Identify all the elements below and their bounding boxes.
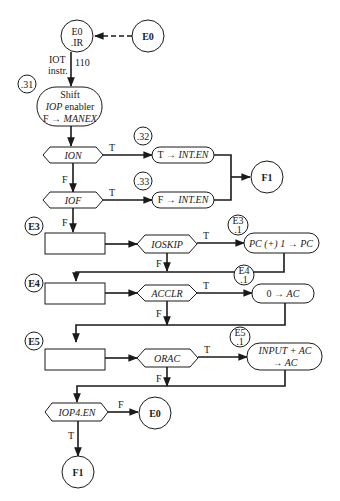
svg-text:F → INT.EN: F → INT.EN	[158, 194, 210, 205]
svg-text:INPUT + AC: INPUT + AC	[257, 345, 311, 356]
connector-f1-top: F1	[251, 161, 283, 193]
decision-ion: ION	[43, 147, 103, 163]
orac-action-box: INPUT + AC → AC	[247, 343, 322, 370]
orac-false-label: F	[156, 373, 162, 384]
svg-text:T → INT.EN: T → INT.EN	[157, 149, 209, 160]
decision-acclr: ACCLR	[137, 285, 197, 301]
svg-text:→ AC: → AC	[272, 357, 297, 368]
tag-32: .32	[134, 127, 152, 145]
code-110: 110	[75, 57, 90, 68]
tag-e4: E4	[25, 274, 43, 292]
svg-text:ACCLR: ACCLR	[150, 288, 182, 299]
acclr-false-label: F	[156, 308, 162, 319]
tag-e5-1: E5 .1	[230, 327, 250, 347]
decision-ioskip: IOSKIP	[137, 235, 197, 253]
join-line	[77, 370, 285, 402]
svg-text:F1: F1	[261, 172, 272, 183]
svg-text:ION: ION	[63, 150, 83, 161]
svg-text:IOF: IOF	[64, 195, 83, 206]
svg-text:.33: .33	[137, 176, 150, 187]
svg-text:E5: E5	[28, 336, 40, 347]
svg-text:.IR: .IR	[71, 37, 84, 48]
e3-box	[45, 233, 105, 254]
acclr-true-label: T	[203, 280, 209, 291]
connector-f1-bottom: F1	[62, 456, 94, 488]
svg-text:.1: .1	[236, 336, 244, 347]
svg-text:E0: E0	[71, 26, 82, 37]
svg-text:.1: .1	[240, 274, 248, 285]
tag-e4-1: E4 .1	[234, 265, 254, 285]
svg-text:.32: .32	[137, 131, 150, 142]
svg-text:PC (+) 1 → PC: PC (+) 1 → PC	[248, 238, 313, 250]
tag-e3-1: E3 .1	[228, 215, 248, 235]
connector-e0-bottom: E0	[139, 397, 171, 429]
e5-box	[45, 349, 105, 370]
merge-line	[214, 155, 231, 200]
svg-text:E4: E4	[28, 278, 40, 289]
svg-text:IOP enabler: IOP enabler	[45, 101, 95, 112]
decision-orac: ORAC	[137, 349, 198, 367]
svg-text:E0: E0	[142, 31, 154, 42]
decision-iof: IOF	[43, 192, 103, 208]
ion-action-box: T → INT.EN	[152, 147, 214, 163]
svg-text:Shift: Shift	[60, 89, 80, 100]
instr-label: instr.	[48, 65, 68, 76]
acclr-action-box: 0 → AC	[252, 284, 314, 303]
join-line	[76, 303, 285, 342]
iof-action-box: F → INT.EN	[152, 192, 214, 208]
ioskip-action-box: PC (+) 1 → PC	[244, 233, 319, 253]
iof-true-label: T	[109, 187, 115, 198]
ion-true-label: T	[109, 142, 115, 153]
orac-true-label: T	[204, 344, 210, 355]
tag-33: .33	[134, 172, 152, 190]
e4-box	[45, 283, 105, 304]
svg-text:IOP4.EN: IOP4.EN	[58, 407, 97, 418]
svg-text:IOSKIP: IOSKIP	[150, 239, 183, 250]
ioskip-false-label: F	[156, 258, 162, 269]
tag-31: .31	[18, 75, 36, 93]
svg-text:F1: F1	[72, 467, 83, 478]
svg-text:E0: E0	[149, 408, 161, 419]
svg-text:0 → AC: 0 → AC	[267, 288, 300, 299]
iop4-true-label: T	[68, 430, 74, 441]
svg-text:E3: E3	[28, 221, 40, 232]
state-e0-ir: E0 .IR	[61, 20, 93, 52]
svg-text:.31: .31	[21, 79, 34, 90]
iot-label: IOT	[49, 54, 66, 65]
tag-e3: E3	[25, 217, 43, 235]
flowchart: E0 .IR E0 IOT instr. 110 .31 Shift IOP e…	[0, 0, 340, 501]
shift-action-box: Shift IOP enabler F → MANEX	[37, 87, 102, 126]
ion-false-label: F	[62, 174, 68, 185]
svg-text:F → MANEX: F → MANEX	[43, 113, 98, 124]
ioskip-true-label: T	[203, 230, 209, 241]
decision-iop4-en: IOP4.EN	[45, 403, 108, 421]
connector-e0-top: E0	[132, 20, 164, 52]
svg-text:.1: .1	[234, 224, 242, 235]
iop4-false-label: F	[118, 399, 124, 410]
iof-false-label: F	[62, 217, 68, 228]
tag-e5: E5	[25, 332, 43, 350]
svg-text:ORAC: ORAC	[154, 353, 180, 364]
